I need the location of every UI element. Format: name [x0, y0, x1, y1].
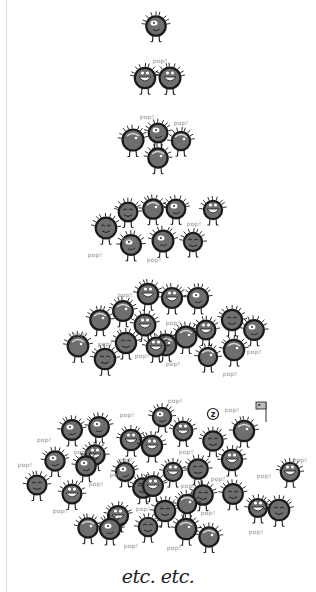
pop-caption: pop! [74, 448, 89, 455]
pop-caption: pop! [167, 544, 182, 551]
creature-icon [156, 63, 185, 94]
creature-icon [167, 127, 194, 156]
creature-icon [171, 514, 200, 545]
creature-icon [199, 427, 227, 457]
creature-icon [85, 413, 113, 443]
creature-icon [169, 417, 196, 446]
pop-caption: pop! [201, 509, 216, 516]
creature-icon [240, 316, 268, 346]
pop-caption: pop! [249, 528, 264, 535]
creature-icon [145, 119, 172, 148]
pop-caption: pop! [257, 472, 272, 479]
creature-icon [138, 431, 167, 462]
creature-icon [194, 343, 221, 372]
pop-caption: pop! [122, 235, 137, 242]
creature-icon [115, 198, 142, 227]
pop-caption: pop! [166, 360, 181, 367]
footer-etc-text: etc. etc. [122, 565, 195, 587]
creature-icon [219, 480, 247, 510]
creature-icon [144, 144, 172, 174]
flag-icon [256, 402, 266, 422]
pop-caption: pop! [153, 57, 168, 64]
creature-icon [220, 335, 249, 366]
pop-caption: pop! [174, 119, 189, 126]
creature-icon [200, 196, 227, 225]
pop-caption: pop! [168, 397, 183, 404]
svg-text:z: z [211, 410, 216, 419]
creature-icon [58, 416, 86, 446]
creature-icon [58, 480, 86, 509]
pop-caption: pop! [135, 352, 150, 359]
pop-caption: pop! [73, 330, 88, 337]
creature-icon [264, 495, 293, 526]
creature-icon [117, 425, 146, 456]
pop-caption: pop! [293, 456, 308, 463]
creature-icon [180, 229, 207, 258]
creature-icon [217, 445, 246, 476]
creature-icon [184, 284, 213, 314]
creature-icon [86, 306, 114, 336]
pop-caption: pop! [18, 461, 33, 468]
creature-icon [148, 226, 177, 257]
pop-caption: pop! [88, 251, 103, 258]
creature-icon [131, 63, 160, 94]
pop-caption: pop! [53, 507, 68, 514]
creature-icon [184, 455, 212, 485]
pop-caption: pop! [247, 348, 262, 355]
pop-caption: pop! [179, 448, 194, 455]
pop-caption: pop! [89, 480, 104, 487]
creature-icon [142, 12, 170, 42]
pop-caption: pop! [119, 456, 134, 463]
illustration-page: z pop!pop!pop!pop!pop!pop!pop!pop!pop!po… [0, 0, 316, 592]
pop-caption: pop! [147, 256, 162, 263]
pop-caption: pop! [118, 291, 133, 298]
creature-icon [134, 279, 163, 310]
creature-icon [276, 458, 303, 487]
pop-caption: pop! [211, 475, 226, 482]
pop-caption: pop! [136, 505, 151, 512]
creature-icon [118, 125, 147, 156]
pop-caption: pop! [140, 113, 155, 120]
creature-icon [229, 416, 258, 447]
creature-icon [139, 195, 167, 225]
pop-caption: pop! [225, 406, 240, 413]
creature-population-drawing: z [0, 0, 316, 592]
sleep-bubble-icon: z [208, 409, 219, 420]
pop-caption: pop! [181, 482, 196, 489]
creature-icon [148, 403, 175, 432]
pop-caption: pop! [166, 319, 181, 326]
pop-caption: pop! [110, 471, 125, 478]
pop-caption: pop! [187, 220, 202, 227]
pop-caption: pop! [124, 542, 139, 549]
creature-icon [92, 213, 121, 244]
pop-caption: pop! [98, 340, 113, 347]
creature-icon [109, 297, 137, 327]
creature-icon [74, 514, 102, 544]
creature-icon [218, 305, 247, 336]
creature-icon [162, 195, 189, 224]
creature-icon [23, 471, 51, 500]
pop-caption: pop! [37, 436, 52, 443]
pop-caption: pop! [223, 370, 238, 377]
creature-icon [91, 344, 120, 375]
creature-icon [41, 447, 69, 477]
pop-caption: pop! [120, 411, 135, 418]
